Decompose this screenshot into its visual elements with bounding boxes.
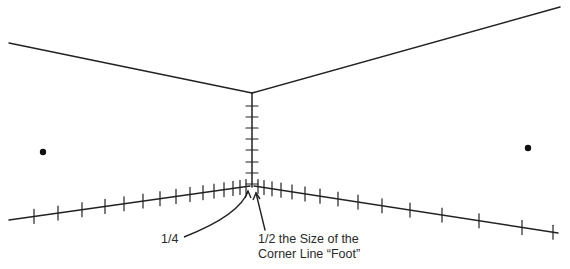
- ceiling-lines: [9, 7, 560, 93]
- floor-line-right: [254, 186, 558, 233]
- quarter-arrow-shaft: [184, 191, 248, 237]
- ceiling-line-left: [9, 43, 252, 93]
- quarter-label: 1/4: [161, 232, 178, 247]
- reference-dot: [525, 145, 531, 151]
- corner-line: [246, 93, 258, 187]
- half-size-label-line2: Corner Line “Foot”: [258, 247, 360, 262]
- reference-dots: [40, 145, 531, 155]
- reference-dot: [40, 149, 46, 155]
- floor-lines: [9, 180, 558, 240]
- half-size-label-line1: 1/2 the Size of the: [258, 232, 360, 247]
- corner-line-diagram: [0, 0, 570, 269]
- pointer-arrows: [184, 191, 265, 237]
- ceiling-line-right: [252, 7, 560, 93]
- half-size-label: 1/2 the Size of the Corner Line “Foot”: [258, 232, 360, 262]
